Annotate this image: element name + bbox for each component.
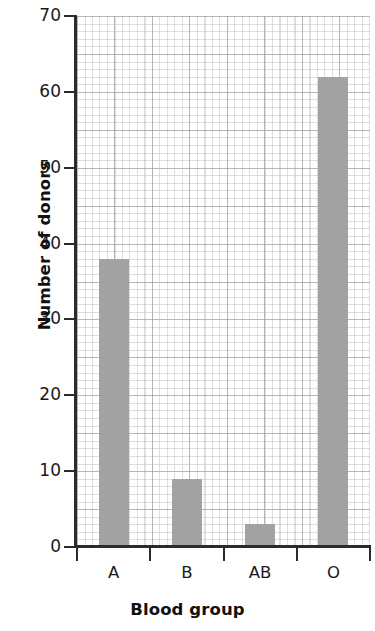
x-tick-mark — [149, 548, 151, 561]
y-tick-label: 0 — [0, 536, 61, 556]
y-axis-title: Number of donors — [35, 116, 54, 376]
x-tick-label-b: B — [150, 563, 224, 582]
y-tick-mark — [64, 243, 76, 245]
bar-o — [318, 77, 348, 547]
y-tick-mark — [64, 470, 76, 472]
y-tick-label: 10 — [0, 460, 61, 480]
x-tick-label-o: O — [296, 563, 370, 582]
bar-chart: 010203040506070 ABABO Number of donors B… — [0, 0, 375, 631]
x-tick-label-ab: AB — [223, 563, 297, 582]
y-axis-line — [74, 15, 77, 548]
y-tick-mark — [64, 318, 76, 320]
x-axis-title: Blood group — [0, 600, 375, 619]
y-tick-mark — [64, 546, 76, 548]
y-tick-mark — [64, 15, 76, 17]
y-tick-label: 70 — [0, 5, 61, 25]
bar-b — [172, 479, 202, 547]
x-tick-label-a: A — [77, 563, 151, 582]
bar-ab — [245, 524, 275, 547]
x-tick-mark — [296, 548, 298, 561]
y-tick-label: 60 — [0, 81, 61, 101]
x-tick-mark — [223, 548, 225, 561]
x-tick-mark — [76, 548, 78, 561]
bar-a — [99, 259, 129, 547]
y-tick-label: 20 — [0, 384, 61, 404]
y-tick-mark — [64, 91, 76, 93]
y-tick-mark — [64, 167, 76, 169]
x-tick-mark — [369, 548, 371, 561]
y-tick-mark — [64, 394, 76, 396]
